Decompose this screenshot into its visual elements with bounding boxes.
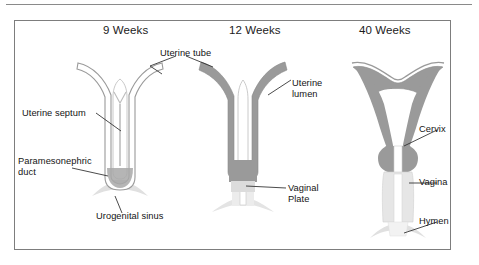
stage-40-weeks-drawing xyxy=(352,62,444,238)
label-uterine-tube: Uterine tube xyxy=(160,48,211,59)
figure-root: 9 Weeks 12 Weeks 40 Weeks Uterine tube U… xyxy=(0,0,479,265)
label-vaginal-plate-line1: Vaginal xyxy=(288,183,319,193)
vaginal-opening xyxy=(388,222,408,236)
uterine-development-illustration xyxy=(0,0,479,265)
stage-title-12-weeks: 12 Weeks xyxy=(229,24,281,36)
stage-9-weeks-drawing xyxy=(72,56,176,213)
label-cervix: Cervix xyxy=(419,124,446,135)
stage-title-9-weeks: 9 Weeks xyxy=(103,24,148,36)
label-paramesonephric-duct-line2: duct xyxy=(18,167,36,177)
fused-uterovaginal-canal-12w xyxy=(229,160,257,182)
label-vaginal-plate-line2: Plate xyxy=(288,194,309,204)
label-hymen: Hymen xyxy=(419,216,449,227)
label-vaginal-plate: Vaginal Plate xyxy=(288,183,336,204)
label-urogenital-sinus: Urogenital sinus xyxy=(96,211,163,222)
vagina-lumen xyxy=(394,174,402,224)
label-paramesonephric-duct-line1: Paramesonephric xyxy=(18,156,92,166)
label-uterine-lumen: Uterine lumen xyxy=(292,78,338,99)
leader-uterine-lumen xyxy=(268,80,291,95)
stage-title-40-weeks: 40 Weeks xyxy=(359,24,411,36)
label-uterine-lumen-line1: Uterine xyxy=(292,78,322,88)
cervix-canal xyxy=(394,146,402,176)
stage-12-weeks-drawing xyxy=(186,56,291,212)
label-vagina: Vagina xyxy=(419,177,448,188)
label-paramesonephric-duct: Paramesonephric duct xyxy=(18,156,98,177)
uterine-lumen-12w xyxy=(238,80,248,171)
label-uterine-lumen-line2: lumen xyxy=(292,89,318,99)
label-uterine-septum: Uterine septum xyxy=(22,108,86,119)
